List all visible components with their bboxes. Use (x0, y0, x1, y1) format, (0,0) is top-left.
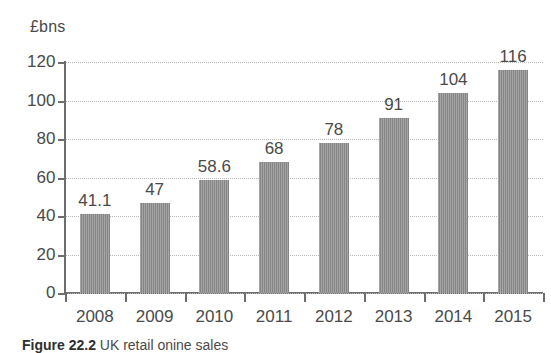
x-axis-tick (364, 293, 366, 302)
y-axis-tick (58, 62, 66, 64)
x-axis-category-label: 2011 (256, 307, 293, 327)
y-axis-tick-label: 20 (37, 245, 56, 265)
y-axis-tick-label: 120 (27, 52, 55, 72)
x-axis-tick (483, 293, 485, 302)
x-axis-tick (185, 293, 187, 302)
plot-area: 020406080100120 41.14758.6687891104116 2… (65, 62, 543, 293)
figure-caption: Figure 22.2 UK retail onine sales (22, 337, 542, 353)
y-axis-tick-label: 40 (37, 206, 56, 226)
bar-value-label: 58.6 (198, 157, 231, 177)
x-axis-category-label: 2014 (434, 307, 472, 327)
gridline (65, 178, 543, 179)
x-axis-tick (125, 293, 127, 302)
y-axis-tick-label: 60 (37, 168, 56, 188)
figure-caption-text: UK retail onine sales (100, 337, 228, 353)
x-axis-tick (543, 293, 545, 302)
gridline (65, 255, 543, 256)
y-axis-tick-label: 100 (27, 91, 55, 111)
bar (140, 203, 170, 293)
x-axis-tick (65, 293, 67, 302)
bar-value-label: 78 (324, 120, 343, 140)
y-axis-tick (58, 255, 66, 257)
bar (80, 214, 110, 293)
y-axis-tick (58, 216, 66, 218)
bar-value-label: 104 (439, 70, 467, 90)
y-axis-tick (58, 101, 66, 103)
x-axis-category-label: 2013 (375, 307, 413, 327)
gridline (65, 216, 543, 217)
bar (379, 118, 409, 293)
bar-value-label: 41.1 (78, 191, 111, 211)
x-axis-category-label: 2012 (315, 307, 353, 327)
x-axis-tick (424, 293, 426, 302)
y-axis-tick (58, 178, 66, 180)
y-axis-tick (58, 139, 66, 141)
bar (199, 180, 229, 293)
gridline (65, 62, 543, 63)
y-axis-unit-label: £bns (30, 18, 66, 36)
bar-value-label: 91 (384, 95, 403, 115)
x-axis-category-label: 2010 (195, 307, 233, 327)
bar (259, 162, 289, 293)
x-axis-category-label: 2015 (494, 307, 532, 327)
y-axis-tick-label: 0 (46, 283, 55, 303)
gridline (65, 101, 543, 102)
x-axis-tick (304, 293, 306, 302)
bar-value-label: 68 (265, 139, 284, 159)
bar (438, 93, 468, 293)
bar (498, 70, 528, 293)
x-axis-category-label: 2008 (76, 307, 114, 327)
x-axis-tick (244, 293, 246, 302)
y-axis-tick-label: 80 (37, 129, 56, 149)
gridline (65, 139, 543, 140)
x-axis-category-label: 2009 (136, 307, 174, 327)
bar-value-label: 116 (500, 47, 527, 67)
figure-caption-number: Figure 22.2 (22, 337, 96, 353)
bar-value-label: 47 (145, 180, 164, 200)
bar (319, 143, 349, 293)
